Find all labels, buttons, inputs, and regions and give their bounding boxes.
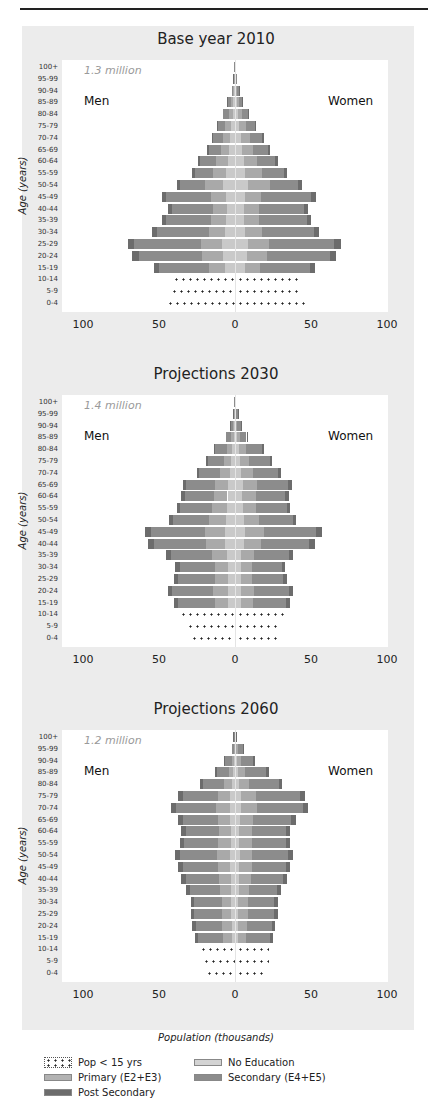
bar-segment-secondary bbox=[252, 574, 283, 584]
bar-segment-primary bbox=[244, 156, 258, 166]
bar-segment-primary bbox=[241, 468, 252, 478]
bar-segment-post-secondary bbox=[278, 468, 281, 478]
bar-segment-secondary bbox=[180, 850, 217, 860]
age-tick-label: 10-14 bbox=[38, 610, 58, 618]
bar-under-15 bbox=[235, 633, 278, 643]
bar-segment-secondary bbox=[253, 468, 278, 478]
bar-segment-primary bbox=[238, 109, 242, 119]
bar-segment-no-education bbox=[225, 227, 235, 237]
x-tick-label: 100 bbox=[377, 653, 398, 666]
bar-segment-primary bbox=[221, 145, 230, 155]
bar-under-15 bbox=[235, 621, 281, 631]
bar-segment-post-secondary bbox=[314, 227, 319, 237]
header-rule bbox=[20, 8, 428, 10]
bar-segment-no-education bbox=[235, 480, 243, 490]
bar-segment-primary bbox=[211, 215, 226, 225]
bar-segment-post-secondary bbox=[316, 527, 322, 537]
bar-segment-primary bbox=[241, 550, 254, 560]
y-axis-label: Age (years) bbox=[17, 826, 28, 884]
bar-segment-primary bbox=[240, 815, 253, 825]
bar-segment-no-education bbox=[235, 192, 245, 202]
bar-segment-primary bbox=[209, 263, 225, 273]
age-tick-label: 70-74 bbox=[38, 804, 58, 812]
bar-segment-secondary bbox=[247, 921, 272, 931]
bar-under-15 bbox=[169, 286, 235, 296]
bar-segment-secondary bbox=[213, 133, 223, 143]
bar-segment-secondary bbox=[260, 263, 309, 273]
bar-segment-secondary bbox=[178, 574, 215, 584]
bar-segment-secondary bbox=[194, 897, 222, 907]
age-tick-label: 40-44 bbox=[38, 875, 58, 883]
bar-segment-primary bbox=[239, 444, 246, 454]
bar-segment-secondary bbox=[262, 227, 314, 237]
bar-segment-secondary bbox=[246, 444, 262, 454]
bar-segment-primary bbox=[237, 97, 239, 107]
post-secondary-swatch-icon bbox=[44, 1089, 72, 1096]
bar-segment-no-education bbox=[223, 251, 235, 261]
bar-segment-secondary bbox=[180, 503, 212, 513]
age-tick-label: 50-54 bbox=[38, 181, 58, 189]
bar-segment-secondary bbox=[252, 850, 288, 860]
bar-segment-primary bbox=[241, 133, 250, 143]
x-tick-label: 0 bbox=[232, 318, 239, 331]
bar-segment-post-secondary bbox=[288, 850, 293, 860]
secondary-swatch-icon bbox=[194, 1074, 222, 1081]
bar-under-15 bbox=[235, 956, 269, 966]
bar-segment-primary bbox=[241, 586, 254, 596]
age-tick-label: 95-99 bbox=[38, 75, 58, 83]
bar-segment-no-education bbox=[235, 215, 244, 225]
bar-segment-primary bbox=[217, 850, 230, 860]
bar-segment-post-secondary bbox=[275, 156, 278, 166]
bar-segment-secondary bbox=[185, 491, 214, 501]
bar-segment-primary bbox=[218, 791, 230, 801]
bar-segment-primary bbox=[245, 263, 261, 273]
bar-segment-primary bbox=[222, 921, 231, 931]
y-axis-label: Age (years) bbox=[17, 491, 28, 549]
bar-segment-secondary bbox=[241, 756, 253, 766]
bar-segment-secondary bbox=[209, 145, 221, 155]
bar-segment-post-secondary bbox=[248, 109, 249, 119]
men-label: Men bbox=[84, 764, 109, 778]
bar-segment-no-education bbox=[228, 562, 235, 572]
age-tick-label: 60-64 bbox=[38, 157, 58, 165]
bar-segment-secondary bbox=[176, 803, 216, 813]
bar-segment-secondary bbox=[172, 586, 212, 596]
total-population: 1.3 million bbox=[84, 64, 142, 77]
age-tick-label: 30-34 bbox=[38, 228, 58, 236]
bar-segment-no-education bbox=[235, 204, 244, 214]
bar-segment-primary bbox=[212, 503, 227, 513]
bar-segment-secondary bbox=[203, 779, 225, 789]
bar-segment-secondary bbox=[208, 456, 224, 466]
bar-segment-no-education bbox=[235, 491, 242, 501]
age-tick-label: 100+ bbox=[39, 398, 58, 406]
bar-segment-no-education bbox=[235, 251, 247, 261]
bar-segment-primary bbox=[222, 897, 232, 907]
age-tick-label: 0-4 bbox=[47, 299, 58, 307]
bar-segment-secondary bbox=[245, 767, 266, 777]
bar-segment-secondary bbox=[267, 251, 330, 261]
bar-segment-primary bbox=[238, 933, 246, 943]
bar-segment-no-education bbox=[227, 204, 235, 214]
bar-segment-no-education bbox=[228, 480, 235, 490]
x-tick-label: 50 bbox=[152, 318, 166, 331]
x-tick-label: 100 bbox=[73, 653, 94, 666]
bar-segment-secondary bbox=[183, 862, 218, 872]
bar-segment-primary bbox=[216, 156, 228, 166]
age-tick-label: 5-9 bbox=[47, 287, 58, 295]
bar-segment-primary bbox=[236, 421, 238, 431]
total-population: 1.2 million bbox=[84, 734, 142, 747]
bar-segment-primary bbox=[215, 598, 228, 608]
bar-segment-secondary bbox=[264, 527, 316, 537]
bar-segment-secondary bbox=[270, 180, 298, 190]
bar-segment-secondary bbox=[183, 791, 218, 801]
bar-segment-primary bbox=[245, 192, 261, 202]
bar-segment-no-education bbox=[235, 145, 242, 155]
bar-segment-secondary bbox=[252, 826, 286, 836]
age-tick-label: 60-64 bbox=[38, 827, 58, 835]
bar-segment-primary bbox=[241, 598, 253, 608]
bar-segment-post-secondary bbox=[303, 803, 309, 813]
bar-segment-primary bbox=[211, 192, 226, 202]
bar-segment-secondary bbox=[186, 874, 219, 884]
age-tick-label: 60-64 bbox=[38, 492, 58, 500]
bar-segment-secondary bbox=[166, 192, 212, 202]
